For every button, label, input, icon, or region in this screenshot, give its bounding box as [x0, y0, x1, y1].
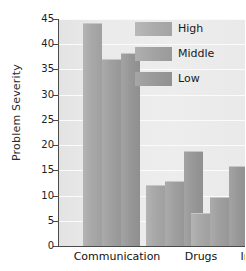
- bar-communication-middle: [102, 59, 121, 246]
- bar-top-edge: [102, 59, 121, 60]
- legend-swatch-low: [135, 72, 172, 86]
- y-axis-tick-label: 25: [41, 115, 54, 125]
- bar-top-edge: [210, 197, 229, 198]
- legend-label-middle: Middle: [178, 47, 214, 61]
- legend-label-low: Low: [178, 72, 200, 86]
- bar-top-edge: [229, 166, 246, 167]
- gridline: [59, 19, 245, 20]
- bar-infidelity-middle: [210, 197, 229, 246]
- y-axis-tick-label: 0: [48, 241, 54, 251]
- bar-communication-high: [83, 23, 102, 246]
- bar-top-edge: [184, 151, 203, 152]
- y-axis-tick-label: 35: [41, 64, 54, 74]
- y-axis-tick-label: 30: [41, 90, 54, 100]
- bar-chart: 051015202530354045 Problem Severity Comm…: [0, 0, 245, 271]
- y-axis-tick-label: 15: [41, 165, 54, 175]
- x-axis-label-infidelity: Infidelity: [227, 250, 245, 263]
- y-axis-tick-label: 10: [41, 191, 54, 201]
- x-axis-label-drugs: Drugs: [171, 250, 231, 263]
- bar-top-edge: [83, 23, 102, 24]
- y-axis-title: Problem Severity: [10, 48, 23, 178]
- bar-drugs-high: [146, 185, 165, 246]
- x-axis-label-communication: Communication: [58, 250, 176, 263]
- bar-top-edge: [165, 181, 184, 182]
- y-axis-tick-label: 20: [41, 140, 54, 150]
- bar-drugs-middle: [165, 181, 184, 246]
- x-axis-line: [59, 246, 245, 247]
- y-axis-tick-label: 45: [41, 14, 54, 24]
- legend-swatch-middle: [135, 47, 172, 61]
- bar-infidelity-high: [191, 213, 210, 246]
- y-axis-tick-label: 40: [41, 39, 54, 49]
- bar-top-edge: [191, 213, 210, 214]
- y-axis-tick-label: 5: [48, 216, 54, 226]
- y-axis-line: [58, 19, 59, 247]
- legend-swatch-high: [135, 22, 172, 36]
- bar-top-edge: [146, 185, 165, 186]
- legend-label-high: High: [178, 22, 203, 36]
- bar-infidelity-low: [229, 166, 246, 246]
